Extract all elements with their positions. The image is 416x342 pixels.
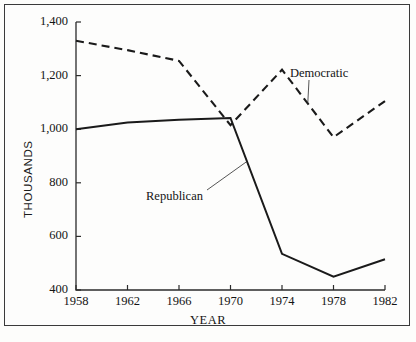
plot-area <box>0 0 416 342</box>
series-line-republican <box>76 118 385 277</box>
figure-container: THOUSANDS 1,400 1,200 1,000 800 600 400 … <box>0 0 416 342</box>
data-series-group <box>76 41 385 277</box>
axis-ticks <box>76 22 385 290</box>
axis-lines <box>76 22 385 290</box>
caption-ghost-text <box>232 333 414 342</box>
